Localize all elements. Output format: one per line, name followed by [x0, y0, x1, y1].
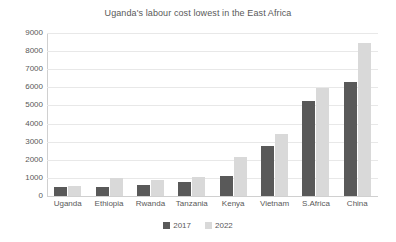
- bar-group: [337, 33, 378, 196]
- bar-group: [295, 33, 336, 196]
- bar-group: [47, 33, 88, 196]
- bar-group: [171, 33, 212, 196]
- x-axis-tick-label: China: [337, 199, 378, 208]
- bar-ethiopia-2022[interactable]: [110, 178, 123, 196]
- bar-rwanda-2017[interactable]: [137, 185, 150, 196]
- legend-label: 2017: [173, 221, 191, 230]
- y-axis-tick-label: 0: [3, 192, 43, 200]
- bar-rwanda-2022[interactable]: [151, 180, 164, 196]
- bar-vietnam-2022[interactable]: [275, 134, 288, 196]
- y-axis-labels: 9000800070006000500040003000200010000: [0, 33, 43, 196]
- bar-uganda-2017[interactable]: [54, 187, 67, 196]
- bar-kenya-2022[interactable]: [234, 157, 247, 196]
- bar-group: [213, 33, 254, 196]
- x-axis-tick-label: Kenya: [213, 199, 254, 208]
- chart-legend: 20172022: [0, 221, 396, 230]
- x-axis-labels: UgandaEthiopiaRwandaTanzaniaKenyaVietnam…: [47, 199, 378, 208]
- legend-swatch-icon: [205, 222, 212, 229]
- bar-safrica-2017[interactable]: [302, 101, 315, 196]
- legend-entry-2017[interactable]: 2017: [163, 221, 191, 230]
- y-axis-tick-label: 3000: [3, 138, 43, 146]
- legend-label: 2022: [215, 221, 233, 230]
- x-axis-tick-label: Rwanda: [130, 199, 171, 208]
- x-axis-tick-label: Vietnam: [254, 199, 295, 208]
- bars-layer: [47, 33, 378, 196]
- y-axis-tick-label: 1000: [3, 174, 43, 182]
- bar-safrica-2022[interactable]: [316, 88, 329, 196]
- bar-tanzania-2017[interactable]: [178, 182, 191, 196]
- y-axis-tick-label: 8000: [3, 47, 43, 55]
- y-axis-tick-label: 9000: [3, 29, 43, 37]
- y-axis-tick-label: 4000: [3, 120, 43, 128]
- y-axis-tick-label: 7000: [3, 65, 43, 73]
- x-axis-tick-label: S.Africa: [295, 199, 336, 208]
- legend-entry-2022[interactable]: 2022: [205, 221, 233, 230]
- bar-group: [88, 33, 129, 196]
- x-axis-tick-label: Uganda: [47, 199, 88, 208]
- bar-ethiopia-2017[interactable]: [96, 187, 109, 196]
- bar-tanzania-2022[interactable]: [192, 177, 205, 196]
- bar-vietnam-2017[interactable]: [261, 146, 274, 196]
- x-axis-tick-label: Tanzania: [171, 199, 212, 208]
- bar-uganda-2022[interactable]: [68, 186, 81, 197]
- x-axis-tick-label: Ethiopia: [88, 199, 129, 208]
- chart-title: Uganda's labour cost lowest in the East …: [0, 8, 396, 18]
- y-axis-tick-label: 6000: [3, 83, 43, 91]
- bar-china-2017[interactable]: [344, 82, 357, 196]
- bar-china-2022[interactable]: [358, 43, 371, 196]
- legend-swatch-icon: [163, 222, 170, 229]
- bar-group: [254, 33, 295, 196]
- y-axis-tick-label: 2000: [3, 156, 43, 164]
- bar-chart: Uganda's labour cost lowest in the East …: [0, 0, 396, 242]
- y-axis-tick-label: 5000: [3, 101, 43, 109]
- gridline: [47, 196, 378, 197]
- bar-kenya-2017[interactable]: [220, 176, 233, 196]
- bar-group: [130, 33, 171, 196]
